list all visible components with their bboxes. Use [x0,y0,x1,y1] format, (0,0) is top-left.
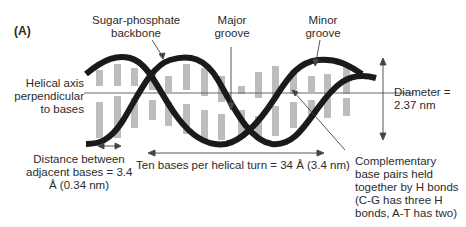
complementary-label-line1: Complementary [355,155,459,168]
panel-label: (A) [14,25,31,38]
diameter-label: Diameter = 2.37 nm [394,86,451,112]
helical-turn-label: Ten bases per helical turn = 34 Å (3.4 n… [136,159,350,172]
diameter-label-line1: Diameter = [394,86,451,99]
helical-axis-label: Helical axis perpendicular to bases [8,77,84,116]
complementary-label-line5: bonds, A-T has two) [355,207,459,220]
helical-axis-label-line2: perpendicular [8,90,84,103]
dna-double-helix-figure: (A) Sugar-phosphate backbone Major groov… [0,0,466,227]
diameter-label-line2: 2.37 nm [394,99,451,112]
complementary-label-line2: base pairs held [355,168,459,181]
minor-groove-label: Minor groove [302,14,344,40]
complementary-label-line4: (C-G has three H [355,194,459,207]
complementary-label-line3: together by H bonds [355,181,459,194]
minor-groove-label-line1: Minor [302,14,344,27]
major-groove-label-line2: groove [211,27,253,40]
helical-axis-label-line3: to bases [8,103,84,116]
backbone-label: Sugar-phosphate backbone [92,14,180,40]
complementary-base-pairs-label: Complementary base pairs held together b… [355,155,459,220]
minor-groove-label-line2: groove [302,27,344,40]
major-groove-label: Major groove [211,14,253,40]
major-groove-label-line1: Major [211,14,253,27]
distance-between-bases-label: Distance between adjacent bases = 3.4 Å … [26,153,132,192]
distance-label-line2: adjacent bases = 3.4 [26,166,132,179]
distance-label-line1: Distance between [26,153,132,166]
backbone-label-line1: Sugar-phosphate [92,14,180,27]
helical-axis-label-line1: Helical axis [8,77,84,90]
distance-label-line3: Å (0.34 nm) [26,179,132,192]
backbone-label-line2: backbone [92,27,180,40]
